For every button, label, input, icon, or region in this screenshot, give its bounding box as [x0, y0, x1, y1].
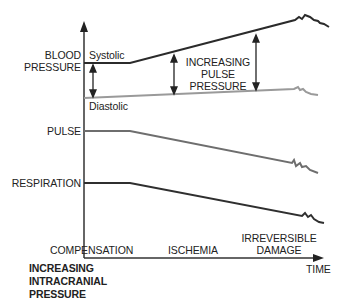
pulse-pressure-annotation: INCREASING PULSE PRESSURE [182, 56, 254, 92]
annotation-line3: PRESSURE [182, 80, 254, 92]
irreversible-line2: DAMAGE [236, 244, 322, 256]
blood-pressure-label-line1: BLOOD [0, 49, 81, 61]
footer-caption: INCREASING INTRACRANIAL PRESSURE [29, 262, 107, 301]
pulse-line [84, 131, 318, 173]
diastolic-label: Diastolic [89, 100, 128, 112]
phase-irreversible-damage-label: IRREVERSIBLE DAMAGE [236, 232, 322, 256]
annotation-line1: INCREASING [182, 56, 254, 68]
pulse-pressure-arrow-left-icon [90, 65, 96, 97]
blood-pressure-label-line2: PRESSURE [0, 61, 81, 73]
pulse-label: PULSE [0, 125, 81, 137]
irreversible-line1: IRREVERSIBLE [236, 232, 322, 244]
footer-line3: PRESSURE [29, 288, 107, 301]
annotation-line2: PULSE [182, 68, 254, 80]
footer-line1: INCREASING [29, 262, 107, 275]
y-axis-arrow-icon [80, 21, 88, 32]
pulse-pressure-arrow-mid-icon [171, 55, 177, 94]
respiration-label: RESPIRATION [0, 177, 81, 189]
x-axis-label: TIME [306, 263, 331, 275]
systolic-label: Systolic [89, 49, 124, 61]
respiration-line [84, 183, 324, 223]
phase-ischemia-label: ISCHEMIA [168, 244, 218, 256]
blood-pressure-label: BLOOD PRESSURE [0, 49, 81, 73]
phase-compensation-label: COMPENSATION [50, 244, 133, 256]
footer-line2: INTRACRANIAL [29, 275, 107, 288]
diagram-canvas [0, 0, 349, 303]
